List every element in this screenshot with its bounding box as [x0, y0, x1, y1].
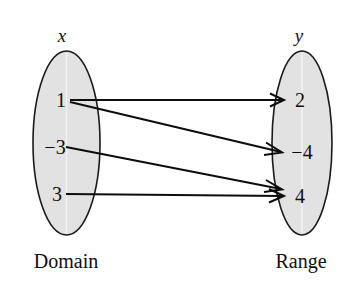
range-variable-label: y [293, 25, 304, 46]
arrow-1-to-neg4-shaft [70, 102, 281, 152]
range-element-neg4: −4 [291, 141, 312, 163]
arrow-3-to-4 [66, 189, 284, 203]
domain-element-neg3: −3 [44, 136, 65, 158]
mapping-diagram-figure: x y 1 −3 3 2 −4 4 Domain Range [0, 0, 355, 281]
arrow-1-to-neg4 [70, 102, 282, 155]
domain-element-1: 1 [56, 89, 66, 111]
domain-set-group [33, 51, 100, 235]
arrow-1-to-2 [70, 94, 284, 107]
range-element-4: 4 [295, 185, 305, 207]
arrow-3-to-4-shaft [66, 194, 283, 196]
range-caption: Range [275, 250, 326, 273]
domain-caption: Domain [34, 250, 98, 272]
domain-element-3: 3 [52, 183, 62, 205]
diagram-canvas: x y 1 −3 3 2 −4 4 Domain Range [0, 0, 355, 281]
domain-variable-label: x [57, 25, 67, 46]
range-element-2: 2 [295, 89, 305, 111]
